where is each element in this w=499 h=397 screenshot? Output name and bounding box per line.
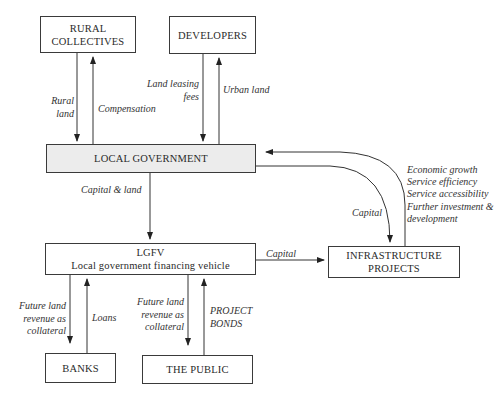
- label-line: revenue as: [120, 309, 184, 322]
- label-line: Service efficiency: [407, 176, 494, 188]
- label-line: Future land: [6, 300, 66, 313]
- label-line: Further investment &: [407, 201, 494, 213]
- node-label: RURAL: [70, 22, 107, 35]
- label-land-leasing-fees: Land leasing fees: [130, 78, 199, 103]
- label-line: BONDS: [210, 318, 252, 331]
- node-rural-collectives: RURAL COLLECTIVES: [40, 16, 136, 53]
- node-infrastructure-projects: INFRASTRUCTURE PROJECTS: [328, 246, 460, 278]
- label-compensation: Compensation: [98, 103, 156, 116]
- node-label: LOCAL GOVERNMENT: [94, 152, 208, 165]
- label-public-collateral: Future land revenue as collateral: [120, 296, 184, 334]
- node-label: DEVELOPERS: [178, 29, 247, 42]
- label-line: Land leasing: [130, 78, 199, 91]
- node-label: LGFV: [136, 246, 164, 259]
- label-line: fees: [130, 91, 199, 104]
- label-line: PROJECT: [210, 305, 252, 318]
- label-banks-collateral: Future land revenue as collateral: [6, 300, 66, 338]
- node-lgfv: LGFV Local government financing vehicle: [45, 243, 256, 275]
- node-local-government: LOCAL GOVERNMENT: [46, 144, 256, 173]
- label-project-bonds: PROJECT BONDS: [210, 305, 252, 330]
- label-line: collateral: [120, 321, 184, 334]
- node-label: PROJECTS: [368, 262, 420, 275]
- node-label: COLLECTIVES: [52, 35, 125, 48]
- label-line: land: [46, 108, 74, 121]
- label-loans: Loans: [92, 312, 116, 325]
- label-capital-gov: Capital: [352, 207, 382, 220]
- label-line: Economic growth: [407, 164, 494, 176]
- node-the-public: THE PUBLIC: [142, 355, 253, 384]
- label-line: Service accessibility: [407, 188, 494, 200]
- node-sublabel: Local government financing vehicle: [71, 259, 230, 272]
- label-line: development: [407, 213, 494, 225]
- node-label: INFRASTRUCTURE: [346, 249, 442, 262]
- label-benefits: Economic growth Service efficiency Servi…: [407, 164, 494, 225]
- label-line: revenue as: [6, 313, 66, 326]
- node-label: THE PUBLIC: [166, 363, 228, 376]
- label-line: collateral: [6, 325, 66, 338]
- node-label: BANKS: [62, 362, 99, 375]
- label-line: Future land: [120, 296, 184, 309]
- label-capital-and-land: Capital & land: [81, 184, 142, 197]
- node-developers: DEVELOPERS: [169, 16, 256, 54]
- label-line: Rural: [46, 95, 74, 108]
- node-banks: BANKS: [45, 353, 116, 383]
- label-capital-lgfv: Capital: [266, 248, 296, 261]
- label-rural-land: Rural land: [46, 95, 74, 120]
- label-urban-land: Urban land: [223, 84, 269, 97]
- arrow-capital-gov: [256, 166, 390, 242]
